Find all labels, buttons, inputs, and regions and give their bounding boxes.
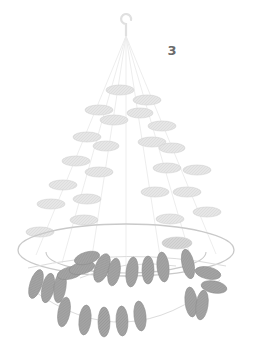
bead-upper-3: [127, 108, 153, 118]
bead-lower-18: [98, 307, 110, 337]
bead-upper-5: [148, 121, 176, 131]
bead-upper-12: [153, 163, 181, 173]
figure-number-label: 3: [163, 42, 181, 60]
bead-upper-11: [85, 167, 113, 177]
bead-upper-8: [93, 141, 119, 151]
bead-upper-20: [70, 215, 98, 225]
bead-upper-9: [159, 143, 185, 153]
bead-upper-17: [37, 199, 65, 209]
bead-upper-6: [73, 132, 101, 142]
bead-upper-10: [62, 156, 90, 166]
bead-upper-16: [173, 187, 201, 197]
bead-upper-21: [156, 214, 184, 224]
mobile-illustration: [0, 0, 255, 354]
bead-upper-15: [141, 187, 169, 197]
figure-page: 3: [0, 0, 255, 354]
bead-upper-0: [106, 85, 134, 95]
bead-upper-13: [183, 165, 211, 175]
bead-upper-1: [133, 95, 161, 105]
bead-upper-18: [73, 194, 101, 204]
bead-lower-9: [142, 256, 154, 284]
canvas-background: [0, 0, 255, 354]
bead-upper-19: [193, 207, 221, 217]
bead-upper-14: [49, 180, 77, 190]
bead-upper-2: [85, 105, 113, 115]
bead-upper-23: [162, 237, 192, 249]
bead-upper-4: [100, 115, 128, 125]
